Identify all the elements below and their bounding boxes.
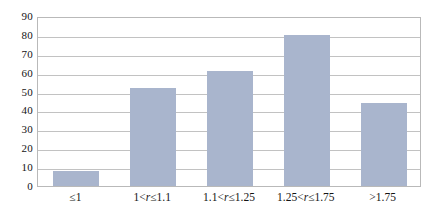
x-tick-label: 1.25<r≤1.75 [267,190,344,204]
y-tick-label: 80 [3,30,33,41]
y-tick-label: 50 [3,87,33,98]
bar [284,35,330,186]
x-tick-label: ≤1 [37,190,114,204]
gridline [38,37,420,38]
y-tick-label: 70 [3,49,33,60]
gridline [38,56,420,57]
y-tick-label: 20 [3,143,33,154]
bar [130,88,176,186]
x-tick-label: 1.1<r≤1.25 [191,190,268,204]
bar [53,171,99,186]
y-axis: 0102030405060708090 [0,17,33,187]
y-tick-label: 0 [3,181,33,192]
y-tick-label: 60 [3,68,33,79]
bar-chart: 0102030405060708090 ≤11<r≤1.11.1<r≤1.251… [0,0,439,218]
y-tick-label: 90 [3,11,33,22]
y-tick-label: 10 [3,162,33,173]
x-tick-label: 1<r≤1.1 [114,190,191,204]
x-tick-label: >1.75 [344,190,421,204]
y-tick-label: 30 [3,124,33,135]
y-tick-label: 40 [3,105,33,116]
x-axis: ≤11<r≤1.11.1<r≤1.251.25<r≤1.75>1.75 [37,190,421,216]
bar [361,103,407,186]
bar [207,71,253,186]
plot-area [37,17,421,187]
